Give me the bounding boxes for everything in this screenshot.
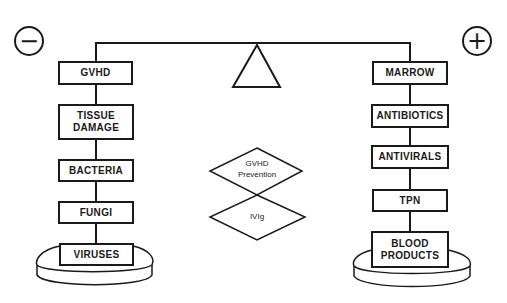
left-item-viruses: VIRUSES xyxy=(59,243,134,266)
right-item-tpn: TPN xyxy=(372,189,448,212)
left-item-tissue-damage: TISSUE DAMAGE xyxy=(58,104,134,140)
right-item-antibiotics: ANTIBIOTICS xyxy=(371,104,449,128)
right-item-marrow: MARROW xyxy=(372,61,448,85)
left-item-bacteria: BACTERIA xyxy=(58,159,134,182)
right-item-blood-products: BLOOD PRODUCTS xyxy=(371,231,449,268)
right-item-antivirals: ANTIVIRALS xyxy=(371,145,449,169)
left-item-gvhd: GVHD xyxy=(58,61,133,85)
minus-sign-icon: − xyxy=(14,26,44,56)
left-item-fungi: FUNGI xyxy=(58,201,134,224)
diamond-label-gvhd-prevention: GVHD Prevention xyxy=(222,158,292,180)
diamond-label-ivig: IVIg xyxy=(222,211,292,222)
plus-sign-icon: + xyxy=(462,26,492,56)
fulcrum-triangle-icon xyxy=(233,45,280,87)
